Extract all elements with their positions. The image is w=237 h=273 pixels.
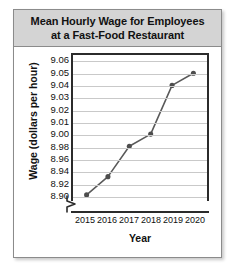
y-axis-tick: 8.96 [51, 152, 70, 163]
y-axis-tick: 8.92 [51, 177, 70, 188]
gridline [73, 160, 207, 161]
gridline [73, 135, 207, 136]
gridline [73, 123, 207, 124]
gridline [73, 148, 207, 149]
y-axis-tick: 9.05 [51, 66, 70, 77]
x-axis-tick: 2017 [119, 215, 139, 225]
x-axis-tick: 2015 [75, 215, 95, 225]
x-axis-label: Year [71, 232, 209, 244]
x-axis-tick: 2016 [97, 215, 117, 225]
data-point-marker [105, 174, 110, 179]
x-axis-tick: 2020 [185, 215, 205, 225]
gridline [73, 98, 207, 99]
chart-title: Mean Hourly Wage for Employees at a Fast… [14, 10, 221, 47]
gridline [73, 74, 207, 75]
gridline [73, 197, 207, 198]
gridline [73, 172, 207, 173]
line-series [73, 55, 207, 201]
chart-card: Mean Hourly Wage for Employees at a Fast… [13, 9, 222, 258]
gridline [73, 111, 207, 112]
gridline [73, 61, 207, 62]
chart-plot-region: Wage (dollars per hour) 9.069.059.049.03… [14, 47, 221, 257]
y-axis-tick-labels: 9.069.059.049.039.029.019.008.988.968.94… [36, 53, 69, 201]
y-axis-tick: 9.00 [51, 128, 70, 139]
y-axis-tick: 9.06 [51, 54, 70, 65]
x-axis-tick-labels: 201520162017201820192020 [71, 215, 209, 229]
y-axis-tick: 9.03 [51, 91, 70, 102]
y-axis-tick: 9.04 [51, 78, 70, 89]
x-axis-line [71, 211, 209, 213]
gridline [73, 185, 207, 186]
y-axis-tick: 8.94 [51, 165, 70, 176]
x-axis-tick: 2018 [141, 215, 161, 225]
x-axis-tick: 2019 [163, 215, 183, 225]
y-axis-tick: 9.02 [51, 103, 70, 114]
chart-title-line-2: at a Fast-Food Restaurant [51, 28, 184, 42]
y-axis-tick: 8.98 [51, 140, 70, 151]
chart-title-line-1: Mean Hourly Wage for Employees [31, 14, 205, 28]
y-axis-tick: 9.01 [51, 115, 70, 126]
plot-area [71, 53, 209, 201]
gridline [73, 86, 207, 87]
